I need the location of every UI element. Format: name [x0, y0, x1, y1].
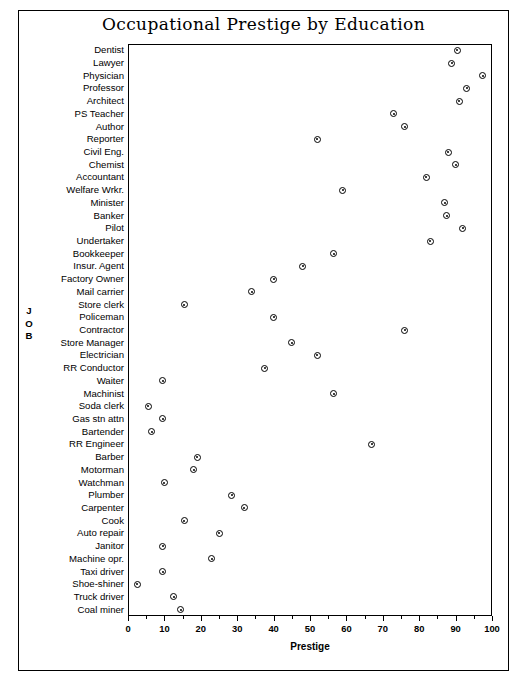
y-axis-tick-label: Taxi driver	[2, 567, 124, 577]
data-point	[401, 123, 408, 130]
x-axis-minor-tick	[437, 616, 438, 619]
x-axis-tick-label: 0	[113, 623, 143, 634]
data-point	[445, 149, 452, 156]
y-axis-tick-label: Author	[2, 122, 124, 132]
x-axis-tick-label: 70	[368, 623, 398, 634]
y-axis-tick-label: Motorman	[2, 465, 124, 475]
y-axis-tick-label: RR Engineer	[2, 439, 124, 449]
data-point	[248, 288, 255, 295]
x-axis-minor-tick	[183, 616, 184, 619]
y-axis-tick-label: Machinist	[2, 389, 124, 399]
data-point	[448, 60, 455, 67]
x-axis-tick	[346, 616, 347, 621]
y-axis-tick-label: Lawyer	[2, 58, 124, 68]
data-point	[368, 441, 375, 448]
data-point	[181, 301, 188, 308]
y-axis-tick-label: Accountant	[2, 172, 124, 182]
data-point	[463, 85, 470, 92]
x-axis-tick-label: 100	[477, 623, 507, 634]
data-point	[459, 225, 466, 232]
y-axis-tick-label: Welfare Wrkr.	[2, 185, 124, 195]
data-point	[161, 479, 168, 486]
data-point	[145, 403, 152, 410]
x-axis-tick	[492, 616, 493, 621]
y-axis-tick-label: Architect	[2, 96, 124, 106]
y-axis-tick-label: Carpenter	[2, 503, 124, 513]
y-axis-tick-label: Waiter	[2, 376, 124, 386]
y-axis-tick-label: Bartender	[2, 427, 124, 437]
x-axis-tick	[237, 616, 238, 621]
y-axis-tick-label: Auto repair	[2, 528, 124, 538]
data-point	[270, 314, 277, 321]
y-axis-tick-label: Factory Owner	[2, 274, 124, 284]
x-axis-tick-label: 20	[186, 623, 216, 634]
x-axis-tick	[201, 616, 202, 621]
data-point	[170, 593, 177, 600]
y-axis-tick-label: Banker	[2, 211, 124, 221]
data-point	[159, 415, 166, 422]
data-point	[148, 428, 155, 435]
data-point	[194, 454, 201, 461]
x-axis-minor-tick	[146, 616, 147, 619]
x-axis-tick-label: 50	[295, 623, 325, 634]
y-axis-tick-label: Civil Eng.	[2, 147, 124, 157]
x-axis-minor-tick	[365, 616, 366, 619]
plot-area	[128, 44, 492, 616]
y-axis-tick-label: Machine opr.	[2, 554, 124, 564]
y-axis-tick-label: PS Teacher	[2, 109, 124, 119]
x-axis-tick-label: 30	[222, 623, 252, 634]
x-axis-title: Prestige	[128, 641, 492, 652]
y-axis-tick-label: Electrician	[2, 350, 124, 360]
x-axis-minor-tick	[328, 616, 329, 619]
y-axis-tick-label: Bookkeeper	[2, 249, 124, 259]
data-point	[134, 581, 141, 588]
data-point	[208, 555, 215, 562]
y-axis-tick-label: RR Conductor	[2, 363, 124, 373]
y-axis-tick-label: Store Manager	[2, 338, 124, 348]
data-point	[427, 238, 434, 245]
chart-page: Occupational Prestige by Education JOB D…	[0, 0, 521, 689]
y-axis-tick-label: Watchman	[2, 478, 124, 488]
data-point	[159, 543, 166, 550]
x-axis-tick	[128, 616, 129, 621]
data-point	[314, 136, 321, 143]
x-axis-minor-tick	[255, 616, 256, 619]
y-axis-tick-label: Gas stn attn	[2, 414, 124, 424]
x-axis-tick-label: 60	[331, 623, 361, 634]
data-point	[330, 390, 337, 397]
x-axis-minor-tick	[219, 616, 220, 619]
y-axis-tick-label: Dentist	[2, 45, 124, 55]
y-axis-tick-label: Physician	[2, 71, 124, 81]
y-axis-tick-label: Coal miner	[2, 605, 124, 615]
data-point	[299, 263, 306, 270]
y-axis-tick-label: Shoe-shiner	[2, 579, 124, 589]
data-point	[228, 492, 235, 499]
data-point	[159, 377, 166, 384]
data-point	[443, 212, 450, 219]
y-axis-tick-label: Policeman	[2, 312, 124, 322]
x-axis-tick-label: 40	[259, 623, 289, 634]
x-axis-tick	[164, 616, 165, 621]
data-point	[177, 606, 184, 613]
y-axis-tick-label: Minister	[2, 198, 124, 208]
x-axis-tick	[274, 616, 275, 621]
y-axis-tick-label: Pilot	[2, 223, 124, 233]
y-axis-tick-label: Janitor	[2, 541, 124, 551]
data-point	[423, 174, 430, 181]
y-axis-tick-label: Plumber	[2, 490, 124, 500]
y-axis-tick-label: Soda clerk	[2, 401, 124, 411]
data-point	[401, 327, 408, 334]
data-point	[261, 365, 268, 372]
data-point	[216, 530, 223, 537]
y-axis-tick-label: Store clerk	[2, 300, 124, 310]
y-axis-tick-label: Truck driver	[2, 592, 124, 602]
y-axis-tick-label: Barber	[2, 452, 124, 462]
data-point	[330, 250, 337, 257]
y-axis-tick-label: Chemist	[2, 160, 124, 170]
x-axis-minor-tick	[292, 616, 293, 619]
data-point	[452, 161, 459, 168]
x-axis-tick	[383, 616, 384, 621]
data-point	[456, 98, 463, 105]
data-point	[479, 72, 486, 79]
data-point	[270, 276, 277, 283]
